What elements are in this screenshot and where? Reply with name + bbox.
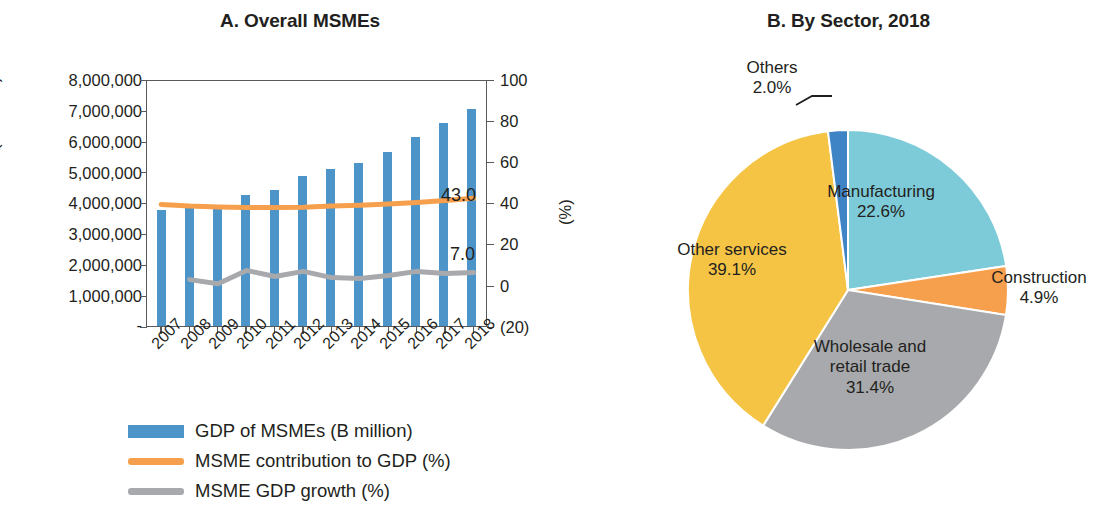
pie-label-wholesale-retail-trade: Wholesale and retail trade 31.4% xyxy=(790,337,950,398)
pie-label-others-name: Others xyxy=(746,58,797,77)
growth-end-label: 7.0 xyxy=(450,244,475,265)
y-right-tickmark xyxy=(487,203,494,204)
legend-item-0[interactable]: GDP of MSMEs (B million) xyxy=(128,416,451,446)
legend-swatch-1 xyxy=(128,458,184,465)
y-left-tick-2000000: 2,000,000 xyxy=(18,256,142,275)
pie-label-wholesale-value: 31.4% xyxy=(846,378,894,397)
legend-label-0: GDP of MSMEs (B million) xyxy=(195,420,413,442)
y-right-tickmark xyxy=(487,286,494,287)
pie-label-construction-name: Construction xyxy=(991,268,1086,287)
y-right-tickmark xyxy=(487,121,494,122)
y-axis-left-title: (B million) xyxy=(0,77,3,150)
pie-label-manufacturing-value: 22.6% xyxy=(857,202,905,221)
pie-label-wholesale-line1: Wholesale and xyxy=(814,337,926,356)
panel-by-sector: B. By Sector, 2018 Others 2.0% Manufactu… xyxy=(600,0,1097,511)
chart-a-plot-area xyxy=(146,80,487,327)
chart-a-legend: GDP of MSMEs (B million)MSME contributio… xyxy=(128,416,451,506)
pie-label-construction-value: 4.9% xyxy=(1020,288,1059,307)
pie-label-other-services-value: 39.1% xyxy=(708,260,756,279)
y-right-tick-80: 80 xyxy=(500,112,518,131)
line-series-overlay xyxy=(147,81,488,328)
pie-label-other-services-name: Other services xyxy=(677,240,787,259)
panel-a-title: A. Overall MSMEs xyxy=(0,10,600,32)
y-left-tick-6000000: 6,000,000 xyxy=(18,133,142,152)
y-axis-right-title: (%) xyxy=(556,199,575,225)
legend-label-2: MSME GDP growth (%) xyxy=(195,480,390,502)
y-left-tick-1000000: 1,000,000 xyxy=(18,287,142,306)
pie-label-others: Others 2.0% xyxy=(712,58,832,99)
y-left-tick-7000000: 7,000,000 xyxy=(18,102,142,121)
y-right-tick-20: 20 xyxy=(500,235,518,254)
pie-label-manufacturing-name: Manufacturing xyxy=(827,182,935,201)
contribution-end-label: 43.0 xyxy=(441,185,476,206)
line-msme-contribution-to-gdp xyxy=(161,198,474,207)
legend-swatch-2 xyxy=(128,488,184,495)
legend-item-2[interactable]: MSME GDP growth (%) xyxy=(128,476,451,506)
pie-label-others-value: 2.0% xyxy=(753,78,792,97)
y-right-tick-neg20: (20) xyxy=(500,318,529,337)
y-right-tickmark xyxy=(487,244,494,245)
line-msme-gdp-growth xyxy=(190,270,474,283)
panel-overall-msmes: A. Overall MSMEs (B million) (%) 8,000,0… xyxy=(0,0,600,511)
y-left-tick-8000000: 8,000,000 xyxy=(18,71,142,90)
y-right-tickmark xyxy=(487,162,494,163)
legend-label-1: MSME contribution to GDP (%) xyxy=(195,450,451,472)
y-right-tick-40: 40 xyxy=(500,194,518,213)
y-right-tick-60: 60 xyxy=(500,153,518,172)
y-left-tickmark xyxy=(140,327,147,328)
legend-swatch-0 xyxy=(128,425,184,438)
pie-label-wholesale-line2: retail trade xyxy=(830,357,910,376)
y-right-tickmark xyxy=(487,80,494,81)
pie-label-construction: Construction 4.9% xyxy=(978,268,1097,309)
pie-label-manufacturing: Manufacturing 22.6% xyxy=(796,182,966,223)
legend-item-1[interactable]: MSME contribution to GDP (%) xyxy=(128,446,451,476)
y-right-tick-0: 0 xyxy=(500,277,509,296)
y-left-tick-3000000: 3,000,000 xyxy=(18,225,142,244)
y-left-tick-4000000: 4,000,000 xyxy=(18,194,142,213)
pie-label-other-services: Other services 39.1% xyxy=(652,240,812,281)
pie-chart-container: Others 2.0% Manufacturing 22.6% Construc… xyxy=(600,0,1097,511)
y-right-tick-100: 100 xyxy=(500,71,528,90)
y-left-tick-5000000: 5,000,000 xyxy=(18,164,142,183)
y-left-tick-zero: - xyxy=(18,316,142,335)
